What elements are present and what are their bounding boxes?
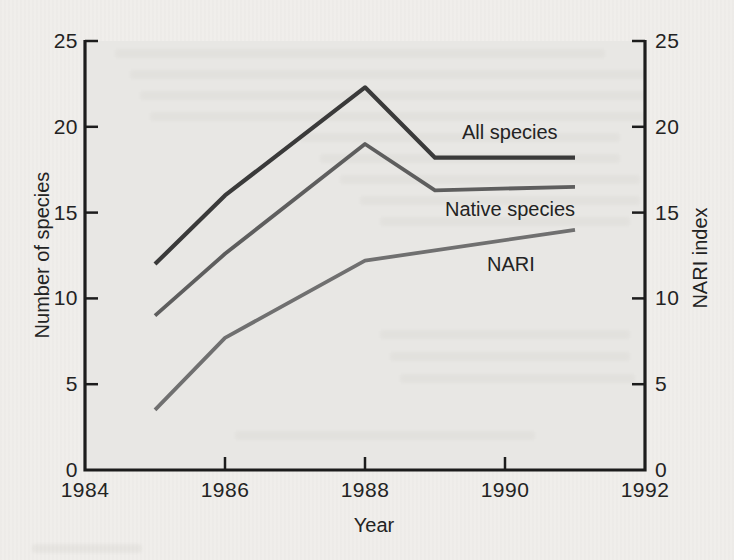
right-axis-tick-label: 20 xyxy=(655,116,679,138)
left-axis-tick-label: 10 xyxy=(54,287,78,309)
axes-frame xyxy=(85,40,645,470)
right-axis-tick-label: 5 xyxy=(655,373,667,395)
series-label-native-species: Native species xyxy=(445,198,575,221)
figure: All species Native species NARI Number o… xyxy=(0,0,734,560)
series-label-all-species: All species xyxy=(462,121,558,144)
x-axis-tick-label: 1992 xyxy=(600,479,690,501)
right-axis-tick-label: 15 xyxy=(655,202,679,224)
x-axis-tick-label: 1990 xyxy=(460,479,550,501)
x-axis-tick-label: 1988 xyxy=(320,479,410,501)
left-axis-tick-label: 5 xyxy=(66,373,78,395)
left-axis-title: Number of species xyxy=(31,172,54,339)
left-axis-tick-label: 15 xyxy=(54,202,78,224)
right-axis-tick-label: 25 xyxy=(655,30,679,52)
chart-canvas xyxy=(0,0,734,560)
left-axis-tick-label: 20 xyxy=(54,116,78,138)
right-axis-tick-label: 10 xyxy=(655,287,679,309)
x-axis-tick-label: 1986 xyxy=(180,479,270,501)
series-line-native-species xyxy=(155,144,575,316)
x-axis-title: Year xyxy=(354,514,394,537)
caption-smudge xyxy=(32,544,142,553)
x-axis-tick-label: 1984 xyxy=(40,479,130,501)
right-axis-title: NARI index xyxy=(689,207,712,308)
left-axis-tick-label: 25 xyxy=(54,30,78,52)
series-label-nari: NARI xyxy=(487,253,535,276)
